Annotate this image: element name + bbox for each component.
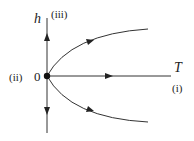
- h-axis-label: h: [34, 11, 41, 26]
- origin-fixed-point: [44, 73, 50, 79]
- arrow-upper-curve-icon: [86, 39, 94, 45]
- lower-flow-curve: [47, 76, 148, 122]
- arrow-right-icon: [105, 73, 113, 79]
- arrow-lower-curve-icon: [86, 106, 94, 112]
- origin-label: 0: [34, 69, 41, 84]
- flow-diagram: h (iii) (ii) 0 T (i): [0, 0, 194, 141]
- arrow-down-icon: [44, 107, 50, 115]
- arrow-up-icon: [44, 33, 50, 41]
- upper-flow-curve: [47, 29, 148, 76]
- label-iii: (iii): [51, 8, 68, 21]
- label-i: (i): [172, 82, 183, 95]
- t-axis-label: T: [174, 60, 183, 75]
- label-ii: (ii): [9, 71, 23, 84]
